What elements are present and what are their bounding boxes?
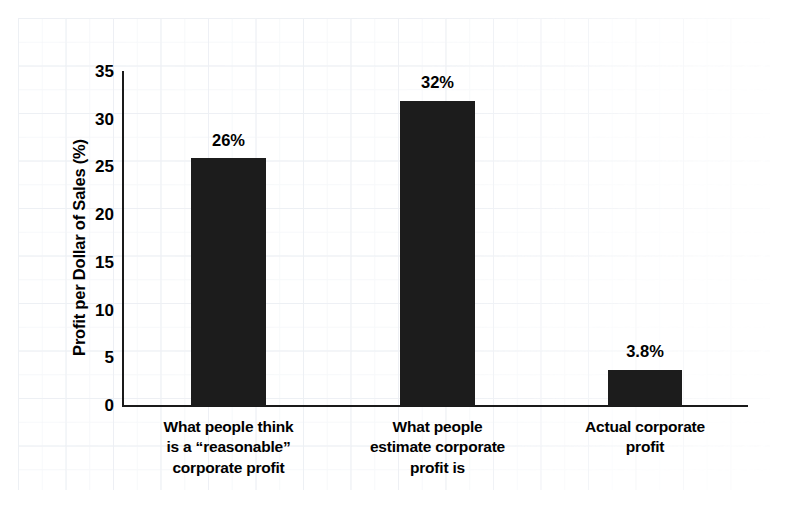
- x-category-line: Actual corporate: [545, 417, 745, 437]
- x-category-label-0: What people think is a “reasonable” corp…: [119, 417, 339, 478]
- y-tick-label: 35: [76, 62, 114, 82]
- bar-value-label-2: 3.8%: [626, 342, 664, 361]
- plot-area: Profit per Dollar of Sales (%) 35 30 25 …: [0, 0, 787, 513]
- x-category-label-2: Actual corporate profit: [545, 417, 745, 458]
- y-tick-label: 5: [76, 348, 114, 368]
- x-category-label-1: What people estimate corporate profit is: [333, 417, 543, 478]
- y-tick-label: 20: [76, 205, 114, 225]
- x-category-line: profit: [545, 437, 745, 457]
- bar-chart-figure: Profit per Dollar of Sales (%) 35 30 25 …: [0, 0, 787, 513]
- bar-what-people-think-reasonable: [191, 158, 266, 406]
- bar-value-label-0: 26%: [212, 131, 245, 150]
- x-category-line: What people: [333, 417, 543, 437]
- bar-what-people-estimate: [400, 101, 475, 406]
- y-tick-label: 10: [76, 301, 114, 321]
- y-tick-label: 0: [76, 396, 114, 416]
- x-category-line: profit is: [333, 458, 543, 478]
- y-tick-label: 15: [76, 253, 114, 273]
- x-category-line: estimate corporate: [333, 437, 543, 457]
- x-category-line: What people think: [119, 417, 339, 437]
- bar-value-label-1: 32%: [421, 73, 454, 92]
- bar-actual-corporate-profit: [608, 370, 682, 406]
- y-tick-label: 25: [76, 157, 114, 177]
- x-category-line: corporate profit: [119, 458, 339, 478]
- y-tick-label: 30: [76, 110, 114, 130]
- y-axis-line: [122, 71, 124, 407]
- x-category-line: is a “reasonable”: [119, 437, 339, 457]
